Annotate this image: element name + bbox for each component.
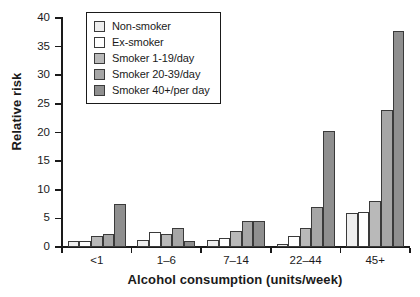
legend-item: Smoker 20-39/day [94,66,210,82]
bar [323,131,335,247]
legend-label: Smoker 1-19/day [112,52,194,64]
x-tick [409,248,411,253]
bar-group [340,18,410,247]
bar [358,212,370,247]
y-tick-label: 0 [20,241,50,253]
bar [184,241,196,247]
x-tick-label: 45+ [340,254,410,266]
x-tick [61,248,63,253]
legend-label: Smoker 40+/per day [112,84,210,96]
y-tick [55,189,62,191]
legend-item: Ex-smoker [94,34,210,50]
legend-swatch-icon [94,69,105,80]
y-tick [55,103,62,105]
x-tick-label: <1 [62,254,132,266]
legend-item: Smoker 1-19/day [94,50,210,66]
bar [91,236,103,247]
x-tick-label: 1–6 [131,254,201,266]
legend-label: Non-smoker [112,20,171,32]
bar [369,201,381,247]
legend-swatch-icon [94,85,105,96]
bar [149,232,161,247]
y-tick [55,46,62,48]
y-tick-label: 20 [20,127,50,139]
bar [300,228,312,247]
bar [137,240,149,247]
bar [68,241,80,247]
x-axis-title: Alcohol consumption (units/week) [55,272,415,287]
bar [277,244,289,247]
y-tick [55,132,62,134]
bar [393,31,405,247]
bar [219,238,231,247]
bar [288,236,300,247]
x-tick-label: 7–14 [201,254,271,266]
y-tick [55,160,62,162]
y-tick [55,17,62,19]
bar [207,240,219,247]
y-tick-label: 35 [20,41,50,53]
bar [346,213,358,247]
x-tick [340,248,342,253]
bar-group [271,18,341,247]
chart-legend: Non-smokerEx-smokerSmoker 1-19/daySmoker… [86,12,221,104]
legend-item: Smoker 40+/per day [94,82,210,98]
y-tick-label: 10 [20,184,50,196]
legend-label: Smoker 20-39/day [112,68,200,80]
y-tick [55,74,62,76]
y-tick-label: 30 [20,69,50,81]
legend-item: Non-smoker [94,18,210,34]
y-tick [55,218,62,220]
bar [103,234,115,247]
legend-label: Ex-smoker [112,36,164,48]
bar [79,241,91,247]
bar [172,228,184,247]
bar [114,204,126,247]
legend-swatch-icon [94,37,105,48]
bar [161,234,173,247]
x-tick [200,248,202,253]
bar [242,221,254,247]
x-tick [131,248,133,253]
x-tick-label: 22–44 [271,254,341,266]
legend-swatch-icon [94,53,105,64]
bar [253,221,265,247]
y-tick-label: 15 [20,155,50,167]
y-tick-label: 5 [20,212,50,224]
y-tick-label: 25 [20,98,50,110]
bar [381,110,393,247]
bar [230,231,242,247]
x-tick [270,248,272,253]
legend-swatch-icon [94,21,105,32]
chart-figure: Relative risk Alcohol consumption (units… [0,0,420,297]
y-tick-label: 40 [20,12,50,24]
bar [311,207,323,247]
